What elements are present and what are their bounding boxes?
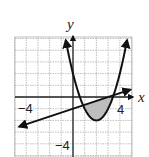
- y-tick-neg4: −4: [55, 138, 70, 153]
- axes: [15, 36, 133, 157]
- graph: y x −4 4 −4: [0, 0, 149, 157]
- x-tick-4: 4: [117, 102, 124, 117]
- x-tick-neg4: −4: [18, 101, 33, 116]
- x-axis-label: x: [137, 89, 145, 105]
- y-axis-label: y: [65, 16, 74, 32]
